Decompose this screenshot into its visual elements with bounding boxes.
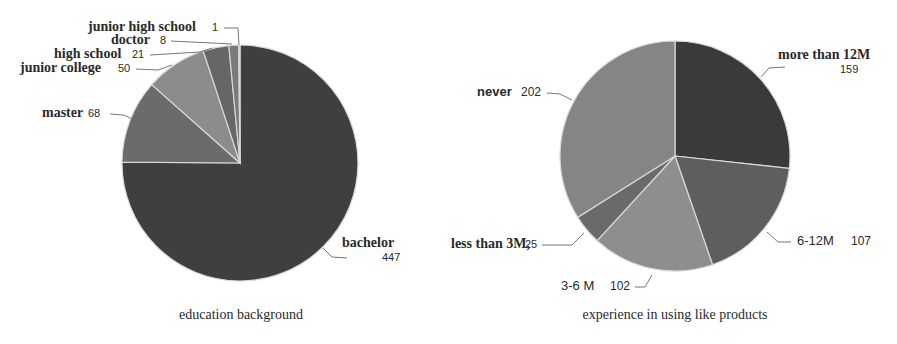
label-master: master (42, 105, 83, 120)
value-bachelor: 447 (382, 251, 400, 263)
pie-slice-more-than-12m (675, 41, 790, 168)
leader-3-6m (635, 275, 652, 287)
label-6-12m: 6-12M (797, 233, 834, 248)
value-less-than-3m: 25 (525, 238, 537, 250)
education-chart-title: education background (179, 307, 303, 322)
label-less-than-3m: less than 3M, (451, 236, 530, 251)
experience-pie (560, 41, 790, 271)
value-3-6m: 102 (610, 279, 630, 293)
value-high-school: 21 (132, 48, 144, 60)
value-junior-college: 50 (118, 62, 130, 74)
value-master: 68 (88, 107, 100, 119)
education-pie (122, 45, 358, 281)
label-never: never (477, 84, 512, 99)
value-6-12m: 107 (851, 234, 871, 248)
leader-never (547, 93, 572, 100)
experience-chart-title: experience in using like products (582, 307, 767, 322)
leader-junior-college (136, 65, 172, 70)
leader-more-than-12m (761, 67, 785, 77)
label-high-school: high school (54, 46, 121, 61)
value-junior-high-school: 1 (212, 21, 218, 33)
label-more-than-12m: more than 12M (778, 47, 870, 62)
figure-canvas: junior high school 1 doctor 8 high schoo… (0, 0, 897, 344)
leader-6-12m (767, 232, 791, 242)
label-bachelor: bachelor (342, 235, 394, 250)
leader-less-than-3m (542, 233, 584, 245)
leader-doctor (171, 41, 232, 44)
label-junior-college: junior college (19, 60, 101, 75)
value-doctor: 8 (160, 34, 166, 46)
value-more-than-12m: 159 (840, 63, 858, 75)
leader-junior-high-school (224, 28, 239, 45)
label-doctor: doctor (111, 32, 150, 47)
value-never: 202 (521, 85, 541, 99)
leader-master (110, 114, 132, 119)
label-3-6m: 3-6 M (561, 278, 594, 293)
